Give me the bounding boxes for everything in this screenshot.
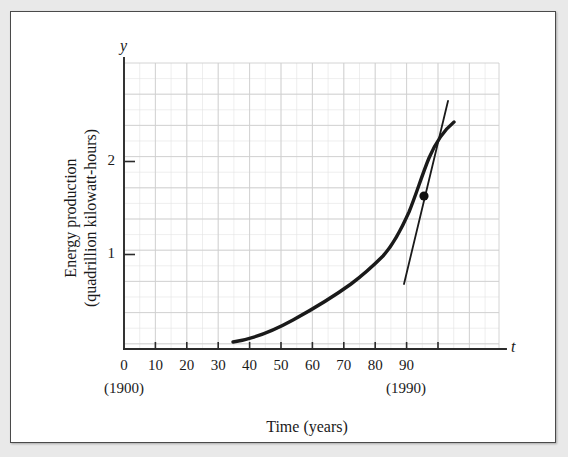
x-axis-title: Time (years) (207, 418, 407, 436)
y-axis-title-line1: Energy production (62, 158, 79, 277)
tangency-point-marker (419, 191, 428, 200)
grid-minor (124, 63, 499, 349)
y-axis-title: Energy production (quadrillion kilowatt-… (61, 88, 101, 348)
x-axis-symbol: t (511, 338, 515, 356)
figure-frame: y t 2 1 0 10 20 30 40 50 60 70 80 90 (19… (10, 11, 556, 443)
x-end-year-note: (1990) (371, 380, 441, 397)
y-axis-title-line2: (quadrillion kilowatt-hours) (81, 88, 101, 348)
x-origin-year-note: (1900) (89, 380, 159, 397)
grid-major (124, 63, 499, 349)
x-tick-label-90: 90 (387, 357, 427, 374)
figure-canvas: y t 2 1 0 10 20 30 40 50 60 70 80 90 (19… (0, 0, 568, 457)
y-axis-symbol: y (120, 37, 127, 55)
y-tick-marks (124, 162, 135, 255)
